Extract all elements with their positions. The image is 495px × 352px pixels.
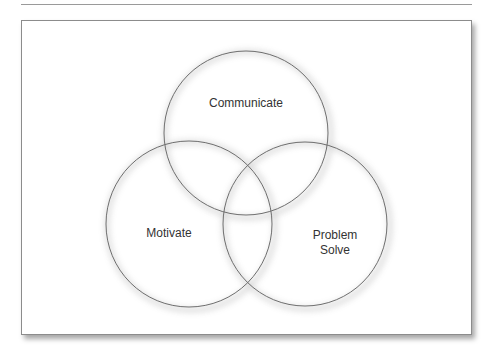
- venn-diagram: [0, 0, 495, 352]
- communicate-label: Communicate: [206, 96, 286, 111]
- circle-shadows: [107, 52, 390, 310]
- motivate-label: Motivate: [134, 226, 204, 241]
- problem-solve-label-line2: Solve: [300, 243, 370, 258]
- problem-solve-label: Problem Solve: [300, 228, 370, 258]
- problem-solve-label-line1: Problem: [300, 228, 370, 243]
